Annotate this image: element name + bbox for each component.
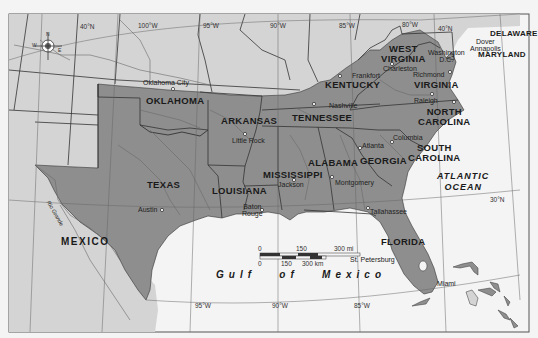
scale-km-0: 0 [258, 261, 262, 268]
city-label-dover: Dover [476, 38, 495, 45]
state-label-louisiana: LOUISIANA [212, 186, 267, 196]
city-label-baton-rouge: Baton Rouge [242, 203, 263, 217]
atlantic-line2: OCEAN [437, 183, 489, 192]
baton-rouge-line2: Rouge [242, 210, 263, 217]
state-label-kentucky: KENTUCKY [325, 80, 380, 90]
city-label-tallahassee: Tallahassee [370, 208, 407, 215]
grid-label-95w-bottom: 95°W [195, 303, 211, 310]
city-label-oklahoma-city: Oklahoma City [143, 79, 189, 86]
city-label-raleigh: Raleigh [414, 97, 438, 104]
grid-label-100w: 100°W [138, 23, 158, 30]
state-label-south-carolina: SOUTH CAROLINA [408, 143, 461, 162]
scale-km-300: 300 km [302, 261, 323, 268]
grid-label-40n-right: 40°N [438, 26, 453, 33]
atlantic-line1: ATLANTIC [437, 172, 489, 181]
baton-rouge-line1: Baton [242, 203, 263, 210]
washington-line1: Washington [428, 49, 465, 56]
state-label-west-virginia: WEST VIRGINIA [381, 44, 426, 63]
state-label-virginia: VIRGINIA [414, 80, 459, 90]
grid-label-95w-top: 95°W [203, 23, 219, 30]
city-label-washington-dc: Washington D.C. [428, 49, 465, 63]
compass-w: W [32, 43, 37, 48]
city-label-columbia: Columbia [393, 134, 423, 141]
west-virginia-line2: VIRGINIA [381, 54, 426, 64]
grid-label-80w-top: 80°W [402, 22, 418, 29]
city-label-annapolis: Annapolis [470, 45, 501, 52]
water-label-gulf-of-mexico: Gulf of Mexico [216, 270, 386, 280]
state-label-delaware: DELAWARE [490, 30, 538, 38]
state-label-texas: TEXAS [147, 180, 180, 190]
state-label-maryland: MARYLAND [478, 51, 526, 59]
grid-label-30n: 30°N [490, 197, 505, 204]
south-carolina-line2: CAROLINA [408, 153, 461, 163]
compass-n: N [46, 32, 50, 37]
compass-e: E [58, 48, 61, 53]
city-label-richmond: Richmond [413, 71, 445, 78]
water-label-atlantic: ATLANTIC OCEAN [437, 172, 489, 192]
scale-mi-0: 0 [258, 246, 262, 253]
state-label-mississippi: MISSISSIPPI [263, 170, 323, 180]
city-label-little-rock: Little Rock [232, 137, 265, 144]
city-label-atlanta: Atlanta [362, 142, 384, 149]
grid-label-85w-bottom: 85°W [354, 303, 370, 310]
city-label-st-petersburg: St. Petersburg [350, 256, 395, 263]
state-label-tennessee: TENNESSEE [292, 113, 352, 123]
grid-label-90w-top: 90°W [270, 23, 286, 30]
city-label-montgomery: Montgomery [335, 179, 374, 186]
state-label-arkansas: ARKANSAS [221, 116, 277, 126]
city-label-austin: Austin [138, 206, 157, 213]
scale-km-150: 150 [281, 261, 292, 268]
scale-mi-150: 150 [296, 246, 307, 253]
city-label-charleston: Charleston [383, 65, 417, 72]
grid-label-85w-top: 85°W [339, 23, 355, 30]
north-carolina-line2: CAROLINA [418, 117, 471, 127]
city-label-frankfort: Frankfort [352, 72, 380, 79]
state-label-oklahoma: OKLAHOMA [146, 96, 204, 106]
city-label-nashville: Nashville [329, 102, 357, 109]
grid-label-40n-left: 40°N [80, 24, 95, 31]
city-label-miami: Miami [437, 280, 456, 287]
state-label-alabama: ALABAMA [308, 158, 358, 168]
grid-label-90w-bottom: 90°W [272, 303, 288, 310]
state-label-north-carolina: NORTH CAROLINA [418, 107, 471, 126]
scale-mi-300: 300 mi [334, 246, 354, 253]
state-label-florida: FLORIDA [381, 237, 425, 247]
state-label-georgia: GEORGIA [360, 156, 407, 166]
city-label-jackson: Jackson [278, 181, 304, 188]
country-label-mexico: MEXICO [61, 237, 109, 247]
washington-line2: D.C. [428, 56, 465, 63]
